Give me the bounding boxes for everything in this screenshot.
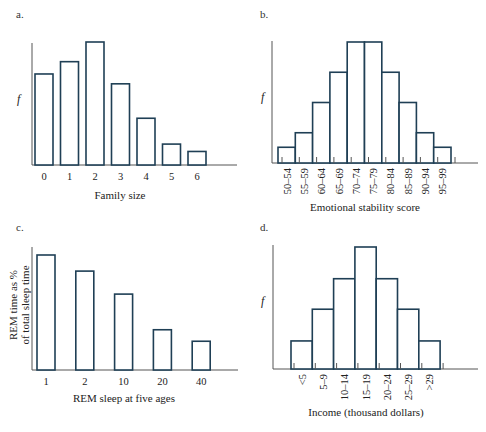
- bar: [365, 42, 382, 163]
- panel-b-y-label: f: [261, 90, 266, 104]
- x-tick-label: 85–89: [403, 168, 414, 194]
- x-tick-label: 3: [118, 171, 123, 182]
- bar: [153, 330, 171, 370]
- bar: [312, 309, 333, 369]
- x-tick-label: 2: [82, 376, 87, 387]
- bar: [115, 294, 133, 370]
- x-tick-label: 40: [196, 376, 207, 387]
- x-tick-label: 60–64: [316, 167, 327, 194]
- x-tick-label: 5: [169, 171, 174, 182]
- bar: [398, 309, 419, 369]
- x-tick-label: 20: [157, 376, 168, 387]
- x-tick-label: 15–19: [361, 374, 372, 400]
- bar: [61, 62, 79, 165]
- x-tick-label: 4: [143, 171, 149, 182]
- panel-a-bars: [35, 42, 206, 165]
- x-tick-label: 50–54: [282, 167, 293, 194]
- bar: [347, 42, 364, 163]
- panel-d: d. f <55–910–1415–1920–2425–29>29 Income…: [260, 221, 478, 419]
- x-tick-label: 25–29: [403, 374, 414, 400]
- x-tick-label: 0: [41, 171, 46, 182]
- x-tick-label: 95–99: [437, 168, 448, 194]
- x-tick-label: 10: [118, 376, 129, 387]
- x-tick-label: 1: [67, 171, 72, 182]
- panel-c-y-label-line-1: REM time as %: [7, 270, 19, 340]
- panel-c-bars: [37, 255, 210, 370]
- x-tick-label: 90–94: [420, 167, 431, 194]
- panel-a: a. f 0123456 Family size: [16, 8, 237, 201]
- panel-b-tick-labels: 50–5455–5960–6465–6970–7475–7980–8485–89…: [282, 167, 449, 194]
- panel-a-label: a.: [16, 8, 24, 20]
- panel-b-x-title: Emotional stability score: [310, 201, 420, 213]
- x-tick-label: 6: [194, 171, 199, 182]
- figure-canvas: a. f 0123456 Family size b. f 50–5455–59…: [0, 0, 486, 432]
- panel-d-tick-labels: <55–910–1415–1920–2425–29>29: [297, 373, 436, 400]
- bar: [416, 133, 433, 163]
- bar: [330, 72, 347, 163]
- panel-c-label: c.: [16, 221, 24, 233]
- bar: [313, 103, 330, 164]
- bar: [112, 84, 130, 165]
- bar: [37, 255, 55, 370]
- x-tick-label: 65–69: [334, 168, 345, 194]
- panel-b-bars: [278, 42, 455, 163]
- bar: [86, 42, 104, 165]
- bar: [76, 271, 94, 370]
- x-tick-label: 5–9: [318, 374, 329, 390]
- bar: [163, 144, 181, 165]
- bar: [137, 118, 155, 165]
- x-tick-label: 2: [92, 171, 97, 182]
- x-tick-label: >29: [424, 374, 435, 390]
- panel-c-x-title: REM sleep at five ages: [73, 392, 175, 404]
- bar: [376, 279, 397, 369]
- bar: [434, 147, 451, 163]
- panel-d-bars: [291, 247, 443, 369]
- panel-c-y-label: REM time as % of total sleep time: [7, 265, 31, 344]
- x-tick-label: 80–84: [385, 167, 396, 194]
- x-tick-label: 70–74: [351, 167, 362, 194]
- bar: [382, 72, 399, 163]
- bar: [35, 74, 53, 165]
- bar: [278, 147, 295, 163]
- panel-d-x-title: Income (thousand dollars): [308, 406, 424, 419]
- x-tick-label: 75–79: [368, 168, 379, 194]
- panel-a-y-label: f: [17, 92, 22, 106]
- x-tick-label: 1: [43, 376, 48, 387]
- x-tick-label: 20–24: [382, 373, 393, 400]
- bar: [334, 279, 355, 369]
- panel-c-tick-labels: 12102040: [43, 376, 206, 387]
- x-tick-label: 55–59: [299, 168, 310, 194]
- panel-d-label: d.: [260, 221, 269, 233]
- x-tick-label: <5: [297, 374, 308, 385]
- panel-b: b. f 50–5455–5960–6465–6970–7475–7980–84…: [260, 8, 478, 213]
- panel-b-label: b.: [260, 8, 269, 20]
- figure-four-histograms: a. f 0123456 Family size b. f 50–5455–59…: [0, 0, 486, 432]
- panel-d-y-label: f: [261, 294, 266, 308]
- panel-a-x-title: Family size: [94, 189, 145, 201]
- bar: [188, 151, 206, 165]
- x-tick-label: 10–14: [339, 373, 350, 400]
- bar: [399, 103, 416, 164]
- panel-a-tick-labels: 0123456: [41, 171, 199, 182]
- panel-c-y-label-line-2: of total sleep time: [19, 265, 31, 344]
- bar: [355, 247, 376, 369]
- panel-c: c. REM time as % of total sleep time 121…: [7, 221, 238, 404]
- bar: [295, 133, 312, 163]
- bar: [192, 341, 210, 370]
